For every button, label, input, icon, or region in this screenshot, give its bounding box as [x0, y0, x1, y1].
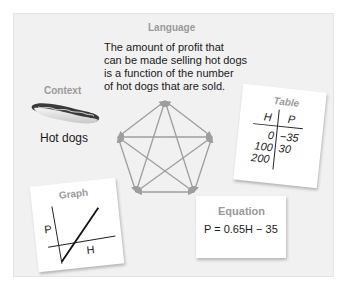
equation-formula: P = 0.65H − 35 — [204, 223, 278, 236]
equation-card: Equation P = 0.65H − 35 — [196, 196, 286, 258]
table-col-h: H — [263, 110, 272, 124]
connector-arrows — [112, 97, 218, 197]
equation-heading: Equation — [218, 205, 265, 217]
table-card: Table H P 0 −35 100 30 200 — [233, 84, 327, 188]
table-heading: Table — [273, 95, 300, 109]
graph-x-label: H — [86, 243, 95, 257]
language-line: can be made selling hot dogs — [104, 54, 247, 67]
language-line: is a function of the number — [104, 67, 247, 80]
language-line: The amount of profit that — [104, 41, 247, 54]
graph-y-label: P — [44, 223, 53, 237]
table-cell-p: 30 — [278, 142, 292, 156]
language-line: of hot dogs that are sold. — [104, 80, 247, 93]
table-cell-h: 200 — [247, 151, 270, 166]
graph-card: Graph P H — [30, 178, 125, 273]
hot-dog-icon — [30, 99, 102, 125]
table-col-p: P — [287, 113, 296, 127]
context-heading: Context — [44, 85, 81, 96]
context-label: Hot dogs — [40, 132, 88, 145]
language-text: The amount of profit that can be made se… — [104, 41, 247, 93]
language-heading: Language — [148, 22, 195, 33]
